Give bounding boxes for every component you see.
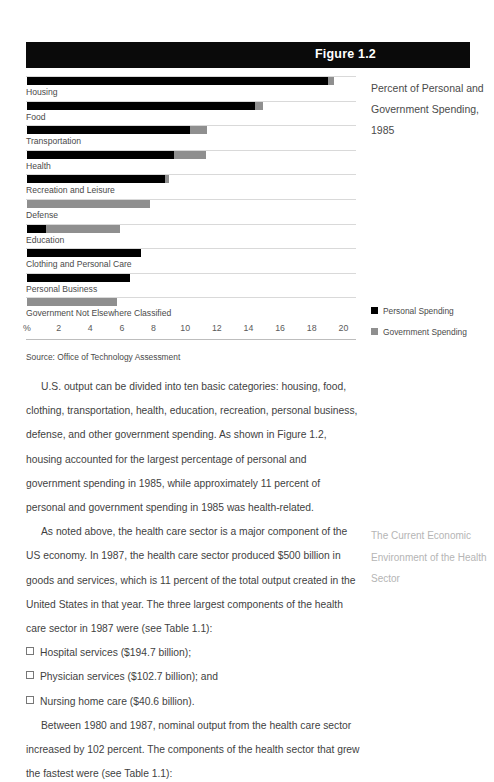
bar-category-label: Food [26, 111, 46, 123]
bar-segment-government [174, 151, 206, 159]
bar-segment-government [165, 175, 170, 183]
bar-segment-personal [27, 175, 165, 183]
bar-category-label: Transportation [26, 135, 81, 147]
body-paragraph: As noted above, the health care sector i… [26, 520, 360, 641]
bar-category-label: Government Not Elsewhere Classified [26, 307, 171, 319]
axis-tick-label: 16 [275, 323, 285, 333]
axis-tick-label: 20 [338, 323, 348, 333]
body-paragraph: U.S. output can be divided into ten basi… [26, 375, 360, 520]
axis-tick-label: 12 [212, 323, 222, 333]
bar-segment-personal [27, 249, 141, 257]
chart-bar-row: Transportation [26, 125, 356, 150]
bullet-square-icon [26, 647, 34, 655]
stacked-bar [27, 126, 207, 134]
chart-bar-row: Education [26, 224, 356, 249]
bar-segment-personal [27, 126, 190, 134]
bullet-square-icon [26, 671, 34, 679]
axis-baseline [26, 339, 356, 340]
bar-category-label: Defense [26, 209, 58, 221]
stacked-bar [27, 274, 130, 282]
chart-bar-row: Health [26, 150, 356, 175]
legend-label: Personal Spending [383, 306, 454, 316]
square-swatch-government [371, 328, 378, 335]
bar-segment-government [328, 77, 334, 85]
axis-tick-label: 6 [119, 323, 124, 333]
chart-legend: Personal SpendingGovernment Spending [371, 302, 491, 344]
figure-header-bar: Figure 1.2 [26, 42, 470, 68]
stacked-bar [27, 175, 169, 183]
bar-segment-government [255, 102, 263, 110]
figure-caption: Percent of Personal and Government Spend… [371, 78, 491, 141]
chart-bar-row: Personal Business [26, 273, 356, 298]
legend-label: Government Spending [383, 327, 467, 337]
bar-segment-government [27, 298, 117, 306]
axis-tick-label: 2 [56, 323, 61, 333]
stacked-bar [27, 225, 120, 233]
axis-tick-label: % [23, 323, 31, 333]
stacked-bar [27, 102, 263, 110]
bullet-text: Nursing home care ($40.6 billion). [40, 690, 195, 714]
bar-category-label: Recreation and Leisure [26, 184, 115, 196]
bar-segment-government [27, 200, 150, 208]
bar-segment-personal [27, 102, 255, 110]
body-text-column: U.S. output can be divided into ten basi… [26, 375, 360, 782]
body-paragraph: Between 1980 and 1987, nominal output fr… [26, 714, 360, 782]
stacked-bar [27, 151, 206, 159]
bar-category-label: Education [26, 234, 64, 246]
axis-tick-label: 18 [307, 323, 317, 333]
document-page: Figure 1.2 Percent of Personal and Gover… [0, 0, 494, 782]
stacked-bar [27, 298, 117, 306]
chart-bar-row: Recreation and Leisure [26, 174, 356, 199]
axis-tick-label: 4 [88, 323, 93, 333]
bar-segment-personal [27, 77, 328, 85]
chart-bar-row: Clothing and Personal Care [26, 248, 356, 273]
axis-tick-label: 14 [244, 323, 254, 333]
chart-bar-row: Defense [26, 199, 356, 224]
figure-number-label: Figure 1.2 [315, 47, 376, 61]
axis-tick-label: 10 [180, 323, 190, 333]
bullet-list-item: Hospital services ($194.7 billion); [26, 641, 360, 665]
stacked-bar [27, 77, 334, 85]
chart-bar-row: Housing [26, 76, 356, 101]
bar-category-label: Personal Business [26, 283, 97, 295]
stacked-bar [27, 249, 141, 257]
legend-item: Government Spending [371, 323, 491, 340]
bar-segment-government [190, 126, 207, 134]
stacked-bar [27, 200, 150, 208]
axis-tick-label: 8 [151, 323, 156, 333]
bar-category-label: Clothing and Personal Care [26, 258, 132, 270]
legend-item: Personal Spending [371, 302, 491, 319]
figure-source-note: Source: Office of Technology Assessment [26, 352, 180, 362]
bar-segment-personal [27, 225, 46, 233]
bar-segment-government [46, 225, 120, 233]
bar-segment-personal [27, 151, 174, 159]
bullet-text: Physician services ($102.7 billion); and [40, 665, 218, 689]
square-swatch-personal [371, 307, 378, 314]
bar-segment-personal [27, 274, 130, 282]
bar-chart: HousingFoodTransportationHealthRecreatio… [26, 76, 356, 324]
chart-bar-row: Government Not Elsewhere Classified [26, 297, 356, 322]
chart-x-axis: %2468101214161820 [26, 323, 356, 345]
bar-category-label: Health [26, 160, 51, 172]
bullet-list-item: Nursing home care ($40.6 billion). [26, 690, 360, 714]
bullet-list-item: Physician services ($102.7 billion); and [26, 665, 360, 689]
bullet-text: Hospital services ($194.7 billion); [40, 641, 191, 665]
bullet-square-icon [26, 696, 34, 704]
chart-bar-row: Food [26, 101, 356, 126]
running-head: The Current Economic Environment of the … [371, 525, 491, 590]
bar-category-label: Housing [26, 86, 58, 98]
